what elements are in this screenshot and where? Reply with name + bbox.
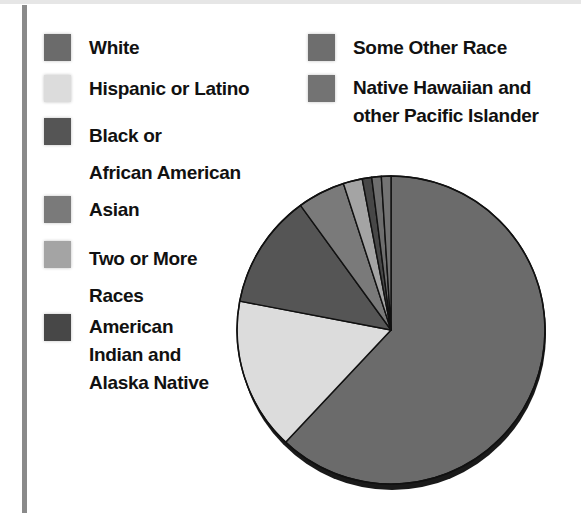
pie-slices bbox=[237, 176, 545, 484]
pie-chart bbox=[0, 0, 581, 513]
